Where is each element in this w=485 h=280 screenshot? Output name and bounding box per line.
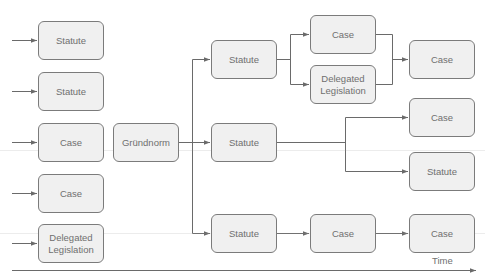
node-grundnorm: Gründnorm <box>113 123 179 162</box>
node-case-input-2: Case <box>38 174 104 213</box>
node-statute-input-1: Statute <box>38 21 104 60</box>
node-case-right-middle: Case <box>409 98 475 137</box>
node-statute-top: Statute <box>211 40 277 79</box>
node-delegated-legislation-middle: Delegated Legislation <box>310 65 376 104</box>
node-delegated-legislation-input: Delegated Legislation <box>38 224 104 263</box>
node-case-bottom-middle: Case <box>310 214 376 253</box>
node-case-input-1: Case <box>38 123 104 162</box>
node-statute-right: Statute <box>409 152 475 191</box>
node-case-right-bottom: Case <box>409 214 475 253</box>
node-case-right-top: Case <box>409 40 475 79</box>
legal-hierarchy-diagram: Statute Statute Case Case Delegated Legi… <box>0 0 485 280</box>
node-case-top: Case <box>310 15 376 54</box>
node-statute-middle: Statute <box>211 123 277 162</box>
time-axis-label: Time <box>432 255 453 266</box>
node-statute-bottom: Statute <box>211 214 277 253</box>
node-statute-input-2: Statute <box>38 72 104 111</box>
